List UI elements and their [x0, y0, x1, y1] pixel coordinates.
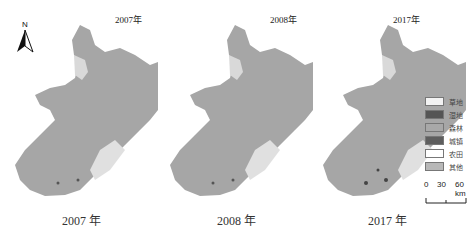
legend-swatch — [425, 149, 444, 158]
scale-bar: 0 30 60 km — [424, 180, 474, 209]
north-arrow-icon — [14, 30, 36, 64]
legend-label: 森林 — [449, 123, 463, 133]
legend-swatch — [425, 136, 444, 145]
legend-label: 农田 — [449, 149, 463, 159]
legend-item-wetland: 湿地 — [425, 108, 463, 121]
scale-tick-60: 60 km — [455, 180, 474, 198]
legend-item-grassland: 草地 — [425, 95, 463, 108]
panel-top-title: 2008年 — [270, 13, 297, 26]
legend-item-forest: 森林 — [425, 121, 463, 134]
legend-swatch — [425, 110, 444, 119]
panel-top-title: 2007年 — [115, 13, 142, 26]
legend-label: 城镇 — [449, 136, 463, 146]
legend-label: 草地 — [449, 97, 463, 107]
panel-top-title: 2017年 — [393, 13, 420, 26]
legend-swatch — [425, 162, 444, 171]
legend: 草地 湿地 森林 城镇 农田 其他 — [425, 95, 463, 173]
scale-tick-0: 0 — [424, 180, 428, 189]
legend-item-other: 其他 — [425, 160, 463, 173]
legend-item-cropland: 农田 — [425, 147, 463, 160]
land-cover-map-2008 — [155, 0, 313, 200]
north-arrow-label: N — [22, 20, 28, 29]
legend-item-urban: 城镇 — [425, 134, 463, 147]
panel-bottom-title: 2007 年 — [62, 211, 101, 229]
panel-bottom-title: 2008 年 — [217, 211, 256, 229]
legend-label: 湿地 — [449, 110, 463, 120]
legend-label: 其他 — [449, 162, 463, 172]
map-panel-2008: 2008年 2008 年 — [155, 0, 313, 200]
legend-swatch — [425, 97, 444, 106]
legend-swatch — [425, 123, 444, 132]
scale-tick-30: 30 — [437, 180, 446, 189]
scale-bar-graphic — [424, 197, 474, 205]
panel-bottom-title: 2017 年 — [368, 211, 407, 229]
